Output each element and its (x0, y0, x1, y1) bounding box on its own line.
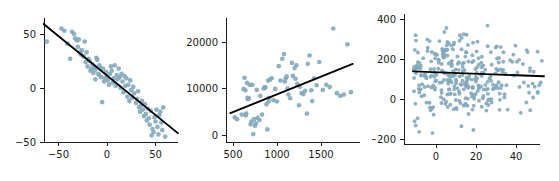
data-point (297, 103, 302, 108)
x-tick-label: 0 (433, 151, 439, 162)
data-point (475, 50, 479, 54)
data-point (455, 86, 459, 90)
data-point (451, 47, 455, 51)
scatter-plot-svg: 5001000150001000020000 (186, 0, 372, 181)
data-point (461, 65, 465, 69)
data-point (518, 85, 522, 89)
x-tick-label: 40 (510, 151, 523, 162)
data-point (480, 55, 484, 59)
data-point (442, 30, 446, 34)
data-point (431, 131, 435, 135)
data-point (489, 50, 493, 54)
data-point (452, 41, 456, 45)
data-point (290, 61, 295, 66)
x-tick-label: 0 (104, 149, 110, 160)
data-point (480, 105, 484, 109)
data-point (441, 52, 445, 56)
data-point (528, 108, 532, 112)
data-point (429, 108, 433, 112)
data-point (450, 80, 454, 84)
data-point (417, 83, 421, 87)
data-point (423, 85, 427, 89)
data-point (446, 82, 450, 86)
data-point (413, 102, 417, 106)
data-point (254, 88, 259, 93)
data-point (471, 128, 475, 132)
data-point (445, 40, 449, 44)
x-tick-label: 20 (470, 151, 483, 162)
data-point (433, 79, 437, 83)
data-point (131, 85, 136, 90)
data-point (260, 112, 265, 117)
data-point (331, 26, 336, 31)
scatter-plot-svg: −50050−50050 (0, 0, 186, 181)
data-point (110, 68, 115, 73)
data-point (417, 87, 421, 91)
data-point (413, 48, 417, 52)
data-point (309, 88, 314, 93)
data-point (432, 113, 436, 117)
data-point (447, 87, 451, 91)
data-point (153, 119, 158, 124)
data-point (442, 48, 446, 52)
data-point (280, 56, 285, 61)
data-point (433, 86, 437, 90)
data-point (155, 125, 160, 130)
data-point (494, 46, 498, 50)
data-point (68, 56, 73, 61)
data-point (428, 101, 432, 105)
data-point (463, 55, 467, 59)
data-point (497, 61, 501, 65)
y-axis-ticks: 01000020000 (186, 37, 226, 141)
data-point (464, 85, 468, 89)
data-point (317, 60, 322, 65)
data-point (460, 47, 464, 51)
data-point (141, 107, 146, 112)
data-points (45, 26, 168, 139)
data-point (502, 50, 506, 54)
data-point (466, 97, 470, 101)
y-tick-label: 20000 (186, 37, 218, 48)
y-tick-label: 200 (377, 54, 396, 65)
data-point (82, 39, 87, 44)
data-point (443, 102, 447, 106)
data-point (433, 56, 437, 60)
data-point (456, 55, 460, 59)
data-point (467, 60, 471, 64)
trend-line (230, 64, 352, 113)
data-point (257, 118, 262, 123)
data-point (504, 83, 508, 87)
data-point (501, 60, 505, 64)
data-point (273, 87, 278, 92)
data-point (414, 123, 418, 127)
data-point (143, 112, 148, 117)
scatter-plot-svg: 02040−2000200400 (372, 0, 559, 181)
data-point (426, 46, 430, 50)
data-point (429, 86, 433, 90)
data-point (419, 74, 423, 78)
data-point (76, 45, 81, 50)
data-point (310, 99, 315, 104)
y-tick-label: −50 (15, 137, 36, 148)
data-point (471, 93, 475, 97)
data-point (465, 79, 469, 83)
data-point (429, 59, 433, 63)
data-point (136, 89, 141, 94)
data-point (428, 39, 432, 43)
data-point (458, 33, 462, 37)
data-point (540, 59, 544, 63)
data-point (77, 37, 82, 42)
data-point (254, 121, 259, 126)
data-point (417, 91, 421, 95)
data-point (496, 68, 500, 72)
data-point (455, 107, 459, 111)
data-point (93, 77, 98, 82)
data-point (536, 50, 540, 54)
data-point (458, 101, 462, 105)
y-tick-label: 0 (30, 83, 36, 94)
y-tick-label: 50 (23, 29, 36, 40)
data-point (454, 98, 458, 102)
data-point (444, 26, 448, 30)
data-point (151, 130, 156, 135)
data-point (438, 81, 442, 85)
